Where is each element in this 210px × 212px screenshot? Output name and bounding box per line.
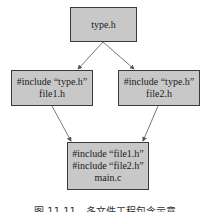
edge-type-to-file1 [78, 42, 103, 69]
edge-type-to-file2 [103, 42, 134, 69]
node-label: type.h [91, 19, 116, 31]
node-include-line: #include “type.h” [124, 76, 195, 88]
node-label: main.c [95, 172, 122, 184]
node-include-line: #include “file1.h” [72, 148, 144, 160]
edge-file1-to-main [52, 106, 71, 141]
node-include-line: #include “file2.h” [72, 160, 144, 172]
edge-file2-to-main [143, 106, 158, 141]
node-label: file1.h [39, 88, 65, 100]
node-label: file2.h [146, 88, 172, 100]
node-type-h: type.h [70, 7, 137, 42]
figure-caption: 图 11.11 多文件工程包含示意 [0, 203, 210, 212]
node-file1-h: #include “type.h” file1.h [11, 70, 93, 106]
node-file2-h: #include “type.h” file2.h [118, 70, 200, 106]
node-main-c: #include “file1.h” #include “file2.h” ma… [67, 142, 149, 190]
node-include-line: #include “type.h” [17, 76, 88, 88]
